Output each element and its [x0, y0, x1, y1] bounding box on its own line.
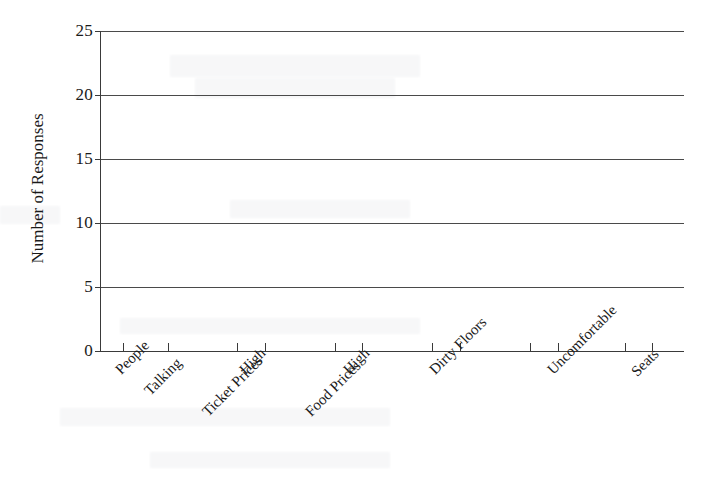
- y-tick-label-0: 0: [59, 342, 93, 359]
- y-tick-mark-25: [95, 31, 100, 32]
- y-tick-label-15: 15: [59, 150, 93, 167]
- x-tick-mark: [625, 343, 626, 352]
- y-axis-line: [100, 31, 101, 352]
- y-axis-title: Number of Responses: [28, 89, 47, 289]
- gridline-20: [100, 95, 684, 96]
- x-category-people-talking: People Talking: [112, 352, 113, 353]
- y-tick-label-25: 25: [59, 22, 93, 39]
- x-tick-mark: [168, 343, 169, 352]
- x-tick-mark: [530, 343, 531, 352]
- scan-artifact: [150, 452, 390, 468]
- x-tick-mark: [335, 343, 336, 352]
- gridline-15: [100, 159, 684, 160]
- x-category-dirty-floors: Dirty Floors: [426, 352, 427, 353]
- y-tick-mark-0: [95, 351, 100, 352]
- y-tick-mark-5: [95, 287, 100, 288]
- x-category-label-line2: Ticket Prices: [199, 353, 266, 420]
- x-tick-mark: [123, 343, 124, 352]
- y-tick-mark-15: [95, 159, 100, 160]
- x-category-uncomfortable-seats: Uncomfortable Seats: [544, 352, 545, 353]
- x-category-high-ticket-prices: High Ticket Prices: [236, 352, 237, 353]
- scan-artifact: [60, 408, 390, 426]
- x-tick-mark: [432, 343, 433, 352]
- gridline-10: [100, 223, 684, 224]
- y-tick-mark-20: [95, 95, 100, 96]
- y-tick-label-5: 5: [59, 278, 93, 295]
- gridline-25: [100, 31, 684, 32]
- chart-container: 25 20 15 10 5 0 Number of Responses Peop…: [0, 0, 701, 478]
- x-category-high-food-prices: High Food Prices: [340, 352, 341, 353]
- y-tick-mark-10: [95, 223, 100, 224]
- x-category-label-line2: Food Prices: [302, 358, 364, 420]
- x-tick-mark: [237, 343, 238, 352]
- x-axis-line: [100, 351, 684, 352]
- y-tick-label-20: 20: [59, 86, 93, 103]
- x-tick-mark: [265, 343, 266, 352]
- gridline-5: [100, 287, 684, 288]
- x-category-label-line2: Talking: [141, 355, 185, 399]
- y-tick-label-10: 10: [59, 214, 93, 231]
- plot-area: [100, 31, 684, 351]
